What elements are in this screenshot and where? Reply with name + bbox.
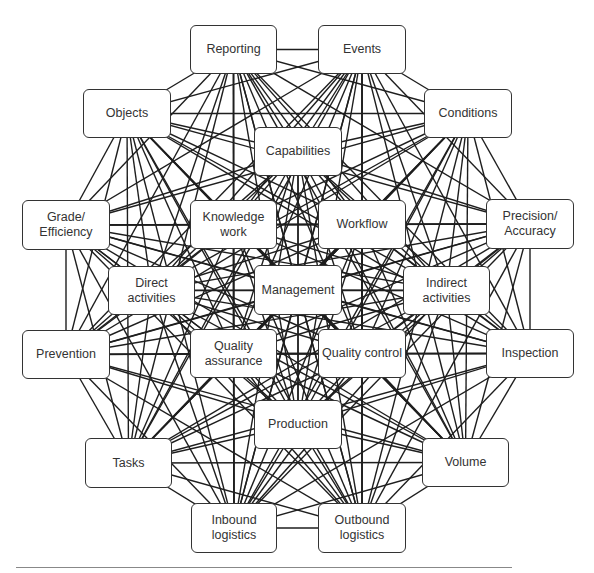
node-label: Knowledge work bbox=[203, 210, 265, 240]
node-label: Grade/ Efficiency bbox=[39, 210, 92, 240]
node-label: Events bbox=[343, 42, 381, 57]
node-quality-control: Quality control bbox=[318, 329, 406, 378]
node-direct-activities: Direct activities bbox=[108, 266, 195, 315]
node-label: Quality control bbox=[322, 346, 402, 361]
node-label: Reporting bbox=[206, 42, 260, 57]
node-precision-accuracy: Precision/ Accuracy bbox=[486, 199, 574, 249]
node-inspection: Inspection bbox=[486, 329, 574, 378]
node-grade-efficiency: Grade/ Efficiency bbox=[22, 200, 110, 250]
node-prevention: Prevention bbox=[22, 330, 110, 379]
node-label: Quality assurance bbox=[205, 339, 263, 369]
node-label: Production bbox=[268, 417, 328, 432]
node-label: Outbound logistics bbox=[335, 513, 390, 543]
node-capabilities: Capabilities bbox=[254, 127, 342, 176]
node-indirect-activities: Indirect activities bbox=[403, 266, 490, 315]
node-production: Production bbox=[254, 400, 342, 449]
node-conditions: Conditions bbox=[424, 89, 512, 138]
node-tasks: Tasks bbox=[85, 438, 172, 488]
node-label: Tasks bbox=[113, 456, 145, 471]
node-label: Conditions bbox=[438, 106, 497, 121]
node-outbound-logistics: Outbound logistics bbox=[318, 503, 406, 553]
node-label: Capabilities bbox=[266, 144, 331, 159]
node-knowledge-work: Knowledge work bbox=[190, 200, 277, 249]
node-label: Direct activities bbox=[128, 276, 176, 306]
node-label: Inbound logistics bbox=[211, 513, 256, 543]
node-label: Indirect activities bbox=[423, 276, 471, 306]
node-inbound-logistics: Inbound logistics bbox=[191, 503, 277, 553]
node-label: Precision/ Accuracy bbox=[503, 209, 558, 239]
node-volume: Volume bbox=[422, 438, 509, 487]
node-workflow: Workflow bbox=[318, 200, 406, 249]
node-label: Workflow bbox=[336, 217, 387, 232]
node-events: Events bbox=[318, 25, 406, 74]
node-management: Management bbox=[254, 265, 342, 315]
node-label: Prevention bbox=[36, 347, 96, 362]
node-reporting: Reporting bbox=[190, 25, 277, 74]
node-label: Management bbox=[262, 283, 335, 298]
node-label: Volume bbox=[445, 455, 487, 470]
node-label: Inspection bbox=[502, 346, 559, 361]
edge-tasks-volume bbox=[129, 463, 466, 464]
node-quality-assurance: Quality assurance bbox=[190, 329, 277, 378]
node-label: Objects bbox=[106, 106, 148, 121]
node-objects: Objects bbox=[83, 89, 171, 138]
edge-quality-assurance-inbound-logistics bbox=[234, 354, 235, 529]
